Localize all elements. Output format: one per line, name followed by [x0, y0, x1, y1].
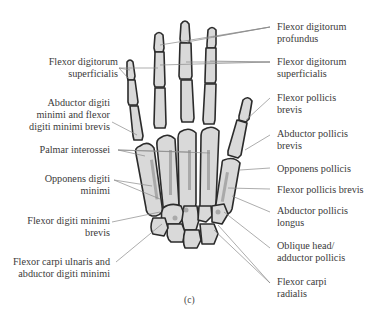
label-opponens-pollicis: Opponens pollicis	[277, 163, 351, 175]
label-line: Flexor digitorum	[277, 21, 346, 33]
label-line: minimi	[45, 185, 110, 197]
label-line: brevis	[27, 227, 110, 239]
label-line: adductor pollicis	[277, 252, 345, 264]
label-line: Flexor pollicis	[277, 92, 336, 104]
label-flexor-pollicis-brevis-thumb: Flexor pollicis brevis	[277, 92, 336, 116]
label-line: brevis	[277, 140, 348, 152]
label-opponens-digiti-minimi: Opponens digiti minimi	[45, 173, 110, 197]
label-abductor-pollicis-longus: Abductor pollicis longus	[277, 205, 348, 229]
label-flexor-digitorum-profundus: Flexor digitorum profundus	[277, 21, 346, 45]
label-palmar-interossei: Palmar interossei	[40, 144, 110, 156]
figure-caption: (c)	[184, 295, 195, 305]
label-flexor-pollicis-brevis-carpal: Flexor pollicis brevis	[277, 184, 364, 196]
label-line: Abductor digiti	[29, 97, 110, 109]
label-line: Flexor digitorum	[277, 56, 346, 68]
label-abductor-digiti-minimi-fdmb: Abductor digiti minimi and flexor digiti…	[29, 97, 110, 134]
label-line: Flexor carpi ulnaris and	[13, 256, 110, 268]
label-line: profundus	[277, 33, 346, 45]
label-line: brevis	[277, 104, 336, 116]
label-oblique-head-adductor-pollicis: Oblique head/ adductor pollicis	[277, 240, 345, 264]
label-line: Abductor pollicis	[277, 205, 348, 217]
label-line: Opponens pollicis	[277, 163, 351, 175]
label-line: abductor digiti minimi	[13, 268, 110, 280]
label-line: longus	[277, 217, 348, 229]
label-fcu-abductor-digiti-minimi: Flexor carpi ulnaris and abductor digiti…	[13, 256, 110, 280]
label-line: radialis	[277, 288, 327, 300]
label-line: Flexor pollicis brevis	[277, 184, 364, 196]
label-line: digiti minimi brevis	[29, 121, 110, 133]
label-flexor-digitorum-superficialis-right: Flexor digitorum superficialis	[277, 56, 346, 80]
label-line: Flexor carpi	[277, 276, 327, 288]
label-line: superficialis	[49, 68, 118, 80]
label-line: Flexor digiti minimi	[27, 215, 110, 227]
label-flexor-digitorum-superficialis-left: Flexor digitorum superficialis	[49, 56, 118, 80]
label-line: superficialis	[277, 68, 346, 80]
middle-finger-bones	[178, 21, 196, 211]
label-line: Flexor digitorum	[49, 56, 118, 68]
label-flexor-digiti-minimi-brevis: Flexor digiti minimi brevis	[27, 215, 110, 239]
label-line: Abductor pollicis	[277, 128, 348, 140]
label-abductor-pollicis-brevis: Abductor pollicis brevis	[277, 128, 348, 152]
label-line: Opponens digiti	[45, 173, 110, 185]
label-line: Oblique head/	[277, 240, 345, 252]
label-line: minimi and flexor	[29, 109, 110, 121]
label-line: Palmar interossei	[40, 144, 110, 156]
label-flexor-carpi-radialis: Flexor carpi radialis	[277, 276, 327, 300]
